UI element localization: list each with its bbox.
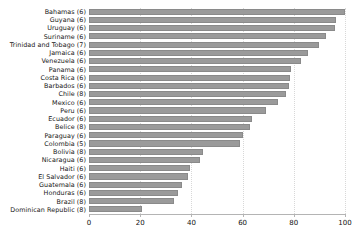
bar-row: [89, 16, 345, 24]
x-tick-label: 60: [238, 219, 247, 227]
bar: [89, 173, 188, 179]
bar-row: [89, 165, 345, 173]
category-label: Guatemala (6): [0, 181, 86, 189]
x-tick-100: [345, 214, 346, 217]
category-label: Chile (8): [0, 90, 86, 98]
category-label: Panama (6): [0, 66, 86, 74]
category-label: Paraguay (6): [0, 132, 86, 140]
horizontal-bar-chart: Bahamas (6)Guyana (6)Uruguay (6)Suriname…: [0, 0, 353, 238]
bar-row: [89, 66, 345, 74]
bar: [89, 25, 335, 31]
category-label: Mexico (6): [0, 99, 86, 107]
category-label: Brazil (8): [0, 198, 86, 206]
category-label: Uruguay (6): [0, 24, 86, 32]
category-label: Dominican Republic (8): [0, 206, 86, 214]
bar-row: [89, 148, 345, 156]
category-label: Colombia (5): [0, 140, 86, 148]
bar: [89, 83, 289, 89]
bar: [89, 165, 190, 171]
bar: [89, 116, 252, 122]
category-label: Barbados (6): [0, 82, 86, 90]
gridline-100: [345, 8, 346, 214]
bar: [89, 140, 240, 146]
bar: [89, 157, 200, 163]
bar: [89, 66, 291, 72]
category-axis-labels: Bahamas (6)Guyana (6)Uruguay (6)Suriname…: [0, 8, 86, 214]
bar-row: [89, 57, 345, 65]
bar-rows: [89, 8, 345, 214]
plot-area: [89, 8, 345, 214]
x-tick-label: 20: [136, 219, 145, 227]
bar: [89, 190, 178, 196]
bar-row: [89, 189, 345, 197]
bar-row: [89, 123, 345, 131]
bar: [89, 124, 250, 130]
category-label: Suriname (6): [0, 33, 86, 41]
x-tick-label: 100: [338, 219, 351, 227]
bar: [89, 50, 308, 56]
bar-row: [89, 41, 345, 49]
category-label: Bolivia (8): [0, 148, 86, 156]
bar-row: [89, 173, 345, 181]
bar-row: [89, 206, 345, 214]
category-label: El Salvador (6): [0, 173, 86, 181]
bar: [89, 182, 182, 188]
category-label: Honduras (6): [0, 189, 86, 197]
category-label: Venezuela (6): [0, 57, 86, 65]
bar: [89, 107, 266, 113]
bar-row: [89, 99, 345, 107]
category-label: Nicaragua (6): [0, 156, 86, 164]
bar-row: [89, 107, 345, 115]
x-tick-60: [243, 214, 244, 217]
bar: [89, 33, 326, 39]
bar-row: [89, 115, 345, 123]
category-label: Belice (8): [0, 123, 86, 131]
bar: [89, 198, 174, 204]
category-label: Guyana (6): [0, 16, 86, 24]
x-tick-40: [191, 214, 192, 217]
bar: [89, 9, 345, 15]
category-label: Costa Rica (6): [0, 74, 86, 82]
bar-row: [89, 181, 345, 189]
x-tick-20: [140, 214, 141, 217]
category-label: Peru (6): [0, 107, 86, 115]
category-label: Bahamas (6): [0, 8, 86, 16]
category-label: Ecuador (6): [0, 115, 86, 123]
bar-row: [89, 74, 345, 82]
bar-row: [89, 24, 345, 32]
bar: [89, 58, 301, 64]
category-label: Trinidad and Tobago (7): [0, 41, 86, 49]
x-tick-0: [89, 214, 90, 217]
bar-row: [89, 156, 345, 164]
bar-row: [89, 49, 345, 57]
bar: [89, 149, 203, 155]
bar-row: [89, 140, 345, 148]
x-tick-label: 40: [187, 219, 196, 227]
x-tick-label: 0: [87, 219, 91, 227]
x-tick-80: [294, 214, 295, 217]
bar-row: [89, 82, 345, 90]
category-label: Jamaica (6): [0, 49, 86, 57]
bar: [89, 42, 319, 48]
bar: [89, 17, 336, 23]
x-axis-line: [89, 214, 346, 215]
bar: [89, 99, 278, 105]
bar: [89, 206, 142, 212]
bar: [89, 91, 286, 97]
bar: [89, 75, 290, 81]
bar: [89, 132, 243, 138]
bar-row: [89, 198, 345, 206]
bar-row: [89, 8, 345, 16]
category-label: Haiti (6): [0, 165, 86, 173]
bar-row: [89, 33, 345, 41]
bar-row: [89, 132, 345, 140]
bar-row: [89, 90, 345, 98]
x-tick-label: 80: [289, 219, 298, 227]
